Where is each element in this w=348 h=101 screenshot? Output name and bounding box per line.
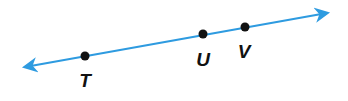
label-u: U <box>196 49 211 70</box>
label-v: V <box>238 41 252 62</box>
point-u <box>199 30 208 39</box>
point-t <box>81 52 90 61</box>
label-t: T <box>79 70 92 91</box>
line-diagram: T U V <box>0 0 348 101</box>
point-v <box>241 23 250 32</box>
line-tuv <box>25 13 327 67</box>
